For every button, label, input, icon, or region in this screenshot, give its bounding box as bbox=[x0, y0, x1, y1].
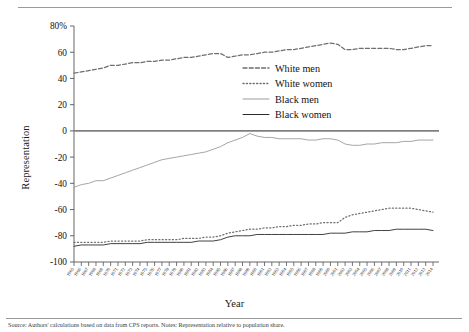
legend-label-black-women: Black women bbox=[275, 109, 331, 120]
series-line-black-women bbox=[74, 229, 433, 246]
x-axis-title: Year bbox=[0, 298, 469, 309]
y-tick-label: 60 bbox=[58, 48, 68, 58]
y-tick-label: -40 bbox=[55, 179, 68, 189]
x-tick-label: 2014 bbox=[424, 266, 434, 277]
series-line-white-women bbox=[74, 208, 433, 242]
series-line-white-men bbox=[74, 43, 433, 73]
figure-caption: Source: Authors' calculations based on d… bbox=[8, 321, 461, 330]
legend-label-black-men: Black men bbox=[275, 94, 319, 105]
legend-label-white-men: White men bbox=[275, 63, 320, 74]
y-axis-title: Representation bbox=[20, 88, 31, 228]
y-tick-label: 40 bbox=[58, 74, 68, 84]
y-tick-label: 80% bbox=[50, 21, 67, 31]
figure-container: -100-80-60-40-20020406080%19651966196719… bbox=[0, 0, 469, 332]
y-tick-label: 0 bbox=[62, 126, 67, 136]
legend-label-white-women: White women bbox=[275, 78, 332, 89]
y-tick-label: -80 bbox=[55, 231, 68, 241]
y-tick-label: -100 bbox=[50, 257, 67, 267]
y-tick-label: 20 bbox=[58, 100, 68, 110]
bottom-divider-rule bbox=[6, 318, 462, 319]
y-tick-label: -60 bbox=[55, 205, 68, 215]
y-tick-label: -20 bbox=[55, 153, 68, 163]
series-line-black-men bbox=[74, 134, 433, 188]
chart-plot-area: -100-80-60-40-20020406080%19651966196719… bbox=[0, 0, 469, 332]
